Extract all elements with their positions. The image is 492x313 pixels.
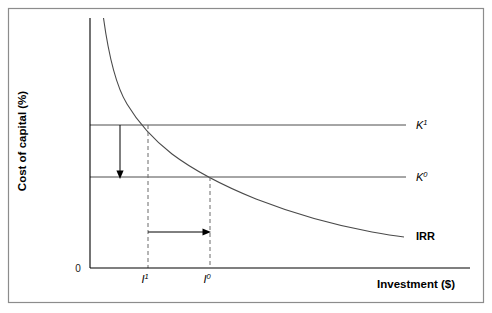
y-axis-title: Cost of capital (%) [16, 91, 28, 191]
i1-superscript-text: 1 [144, 272, 148, 281]
x-axis-title: Investment ($) [377, 278, 455, 290]
irr-series-label: IRR [416, 230, 435, 242]
irr-investment-chart: 0 Cost of capital (%) Investment ($) K1 … [0, 0, 492, 313]
origin-label: 0 [75, 263, 81, 274]
figure-root: 0 Cost of capital (%) Investment ($) K1 … [0, 0, 492, 313]
canvas-background [0, 0, 492, 313]
k1-superscript-text: 1 [423, 118, 427, 127]
